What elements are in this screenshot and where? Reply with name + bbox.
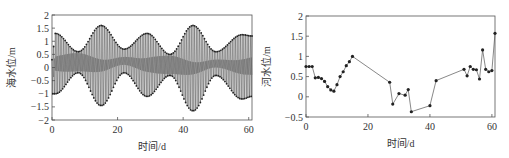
data-point bbox=[388, 81, 391, 84]
right-ytick-label: 1 bbox=[298, 51, 303, 62]
left-ytick-label: −1 bbox=[38, 88, 49, 99]
data-point bbox=[345, 64, 348, 67]
sea-level-series bbox=[51, 25, 253, 112]
data-point bbox=[435, 79, 438, 82]
left-xtick-label: 0 bbox=[50, 124, 55, 135]
data-point bbox=[428, 104, 431, 107]
left-ytick-label: −0.5 bbox=[31, 75, 49, 86]
right-ytick-label: 0.5 bbox=[291, 71, 304, 82]
data-point bbox=[391, 102, 394, 105]
left-x-axis-label: 时间/d bbox=[138, 140, 166, 152]
right-y-axis-label: 河水位/m bbox=[260, 46, 272, 87]
data-point bbox=[351, 55, 354, 58]
data-point bbox=[348, 60, 351, 63]
data-point bbox=[304, 65, 307, 68]
data-point bbox=[472, 68, 475, 71]
data-point bbox=[329, 88, 332, 91]
data-point bbox=[478, 77, 481, 80]
data-point bbox=[317, 76, 320, 79]
right-xtick-label: 0 bbox=[304, 121, 309, 132]
right-ytick-label: 1.5 bbox=[291, 31, 304, 42]
data-point bbox=[490, 69, 493, 72]
data-point bbox=[493, 32, 496, 35]
left-ytick-label: −1.5 bbox=[31, 101, 49, 112]
right-ytick-label: 0 bbox=[298, 91, 303, 102]
river-level-chart: −0.500.511.520204060时间/d河水位/m bbox=[260, 0, 509, 158]
data-point bbox=[320, 77, 323, 80]
right-ytick-label: 2 bbox=[298, 11, 303, 22]
left-ytick-label: −2 bbox=[38, 115, 49, 126]
data-point bbox=[397, 92, 400, 95]
left-ytick-label: 0.5 bbox=[37, 49, 50, 60]
data-point bbox=[311, 65, 314, 68]
data-point bbox=[335, 83, 338, 86]
right-xtick-label: 40 bbox=[425, 121, 435, 132]
data-point bbox=[326, 85, 329, 88]
left-ytick-label: 0 bbox=[44, 62, 49, 73]
data-point bbox=[484, 68, 487, 71]
right-plot-frame bbox=[306, 16, 495, 117]
left-xtick-label: 20 bbox=[113, 124, 123, 135]
data-point bbox=[404, 94, 407, 97]
data-point bbox=[338, 75, 341, 78]
sea-level-chart: −2−1.5−1−0.500.511.520204060时间/d海水位/m bbox=[0, 0, 260, 158]
right-xtick-label: 20 bbox=[363, 121, 373, 132]
data-point bbox=[307, 65, 310, 68]
left-xtick-label: 60 bbox=[244, 124, 254, 135]
left-ytick-label: 1 bbox=[44, 36, 49, 47]
data-point bbox=[410, 110, 413, 113]
data-point bbox=[466, 74, 469, 77]
data-point bbox=[481, 48, 484, 51]
left-xtick-label: 40 bbox=[178, 124, 188, 135]
data-point bbox=[323, 80, 326, 83]
left-ytick-label: 1.5 bbox=[37, 23, 50, 34]
data-point bbox=[342, 70, 345, 73]
left-y-axis-label: 海水位/m bbox=[5, 47, 17, 88]
data-point bbox=[475, 68, 478, 71]
right-xtick-label: 60 bbox=[487, 121, 497, 132]
data-point bbox=[462, 68, 465, 71]
right-ytick-label: −0.5 bbox=[285, 112, 303, 123]
river-level-series bbox=[304, 32, 496, 114]
left-ytick-label: 2 bbox=[44, 10, 49, 21]
data-point bbox=[469, 65, 472, 68]
data-point bbox=[487, 70, 490, 73]
data-point bbox=[332, 90, 335, 93]
data-point bbox=[314, 76, 317, 79]
right-x-axis-label: 时间/d bbox=[387, 137, 415, 149]
data-point bbox=[407, 88, 410, 91]
